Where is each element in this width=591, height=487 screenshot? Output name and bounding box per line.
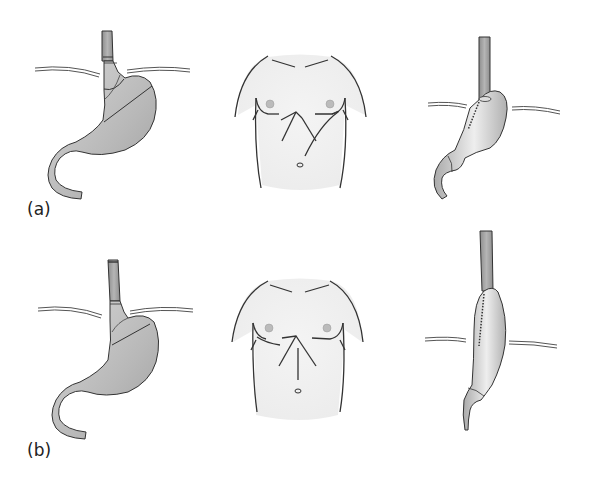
panel-a — [35, 31, 190, 199]
panel-b — [38, 260, 193, 439]
diaphragm-a-right — [127, 67, 190, 73]
torso-b — [232, 279, 363, 421]
nipple-right-b — [323, 324, 331, 332]
esophagus-a-after — [479, 37, 490, 100]
gastric-tube-b — [425, 231, 557, 430]
nipple-right-a — [326, 100, 334, 108]
torso-a — [235, 55, 366, 191]
panel-label-b: (b) — [27, 440, 51, 460]
gastric-tube-a — [428, 37, 560, 199]
diaphragm-a-left — [35, 67, 100, 77]
surgical-diagram — [0, 0, 591, 487]
esophagus-b-after — [480, 231, 493, 291]
nipple-left-b — [265, 324, 273, 332]
nipple-left-a — [266, 100, 274, 108]
panel-label-a: (a) — [27, 199, 51, 219]
esophagus-b — [108, 260, 120, 301]
stomach-b — [52, 301, 159, 439]
stomach-a — [48, 61, 156, 199]
